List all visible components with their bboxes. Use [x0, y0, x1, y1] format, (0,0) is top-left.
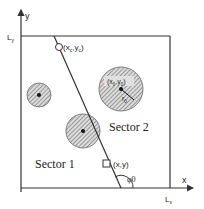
obstacle-large [99, 67, 143, 111]
ly-label: Ly [7, 33, 14, 43]
line-point-label: (xc,yc) [63, 43, 84, 53]
y-axis-label: y [25, 11, 30, 21]
sample-point-marker [103, 160, 110, 167]
sector-2-label: Sector 2 [109, 120, 149, 134]
angle-label: φ0 [127, 175, 136, 184]
obstacle-medium [66, 114, 100, 148]
lx-label: Lx [165, 195, 172, 205]
sector-1-label: Sector 1 [35, 157, 75, 171]
obstacle-small [27, 83, 51, 107]
x-axis-label: x [182, 175, 187, 185]
sample-point-label: (x,y) [113, 160, 129, 169]
sector-diagram: y x Ly Lx (xc,yc) (x,y) (x0,y0) r0 φ0 Se… [0, 0, 204, 209]
line-point-marker [56, 44, 63, 51]
